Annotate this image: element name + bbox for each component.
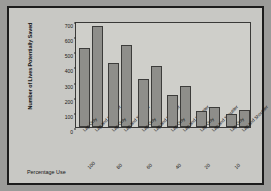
bar [138,79,149,127]
chart-figure: Number of Lives Potentially Saved 010020… [7,6,264,185]
bar-group: Lap OnlyLap and Shoulder [193,23,222,127]
x-axis-tick-labels: 1008060402010 [75,166,251,176]
bar-group: Lap OnlyLap and Shoulder [164,23,193,127]
percentage-tick-label: 20 [203,162,211,170]
bar [79,48,90,128]
y-axis-title: Number of Lives Potentially Saved [27,12,33,120]
percentage-tick-label: 100 [86,160,96,170]
bar-group: Lap OnlyLap and Shoulder [105,23,134,127]
bar [108,63,119,127]
x-axis-title: Percentage Use [27,169,66,175]
plot-area: 0100200300400500600700Lap OnlyLap and Sh… [75,22,251,128]
y-tick-mark [74,129,77,130]
bar [121,45,132,127]
plot-inner: 0100200300400500600700Lap OnlyLap and Sh… [76,23,250,127]
percentage-tick-label: 60 [145,162,153,170]
percentage-tick-label: 10 [233,162,241,170]
bar-group: Lap OnlyLap and Shoulder [135,23,164,127]
bar-group: Lap OnlyLap and Shoulder [76,23,105,127]
bar-group: Lap OnlyLap and Shoulder [223,23,252,127]
bar [92,26,103,127]
percentage-tick-label: 80 [115,162,123,170]
percentage-tick-label: 40 [174,162,182,170]
